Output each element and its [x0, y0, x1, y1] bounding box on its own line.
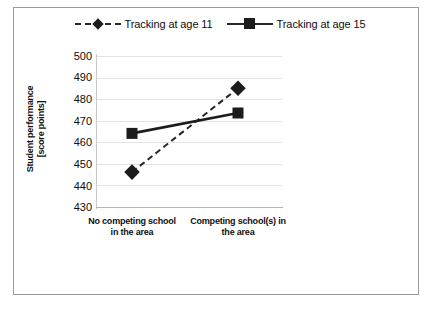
y-tick-440: 440 [58, 181, 92, 192]
square-marker-icon [244, 18, 255, 29]
legend-entry-tracking-age-11: Tracking at age 11 [75, 18, 213, 30]
y-tick-430: 430 [58, 202, 92, 213]
gridline-460 [97, 142, 282, 143]
gridline-490 [97, 78, 282, 79]
y-axis-title-line-2: [score points] [36, 49, 47, 209]
y-tick-500: 500 [58, 51, 92, 62]
diamond-marker-icon [92, 18, 103, 29]
y-tick-470: 470 [58, 116, 92, 127]
y-tick-450: 450 [58, 159, 92, 170]
x-axis-line [96, 207, 283, 208]
gridline-470 [97, 121, 282, 122]
chart-legend: Tracking at age 11 Tracking at age 15 [60, 13, 380, 35]
y-tick-490: 490 [58, 72, 92, 83]
y-axis-line [96, 54, 97, 209]
legend-key-dashed-diamond [75, 18, 121, 30]
gridline-450 [97, 164, 282, 165]
y-axis-title-line-1: Student performance [25, 49, 36, 209]
x-tick-competing-school: Competing school(s) in the area [190, 216, 286, 238]
legend-entry-tracking-age-15: Tracking at age 15 [227, 18, 366, 30]
gridline-500 [97, 56, 282, 57]
y-tick-460: 460 [58, 137, 92, 148]
legend-label-tracking-age-15: Tracking at age 15 [277, 18, 366, 30]
gridline-480 [97, 99, 282, 100]
y-axis-title: Student performance [score points] [25, 49, 47, 209]
legend-key-solid-square [227, 18, 273, 30]
chart-figure: Tracking at age 11 Tracking at age 15 St… [0, 0, 431, 309]
x-tick-no-competing-school: No competing school in the area [84, 216, 180, 238]
legend-label-tracking-age-11: Tracking at age 11 [125, 18, 213, 30]
gridline-440 [97, 185, 282, 186]
y-tick-480: 480 [58, 94, 92, 105]
plot-area [97, 56, 282, 207]
